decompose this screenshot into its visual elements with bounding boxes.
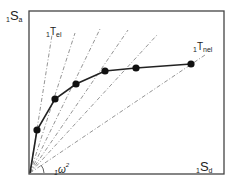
point: [33, 126, 40, 133]
x-axis-label: 1Sd: [196, 157, 212, 175]
ray-last-label: 1Tnel: [193, 36, 212, 54]
ray-3: [30, 29, 100, 173]
point: [101, 67, 108, 74]
ray-first-label: 1Tel: [46, 21, 61, 39]
point: [51, 95, 58, 102]
point: [132, 64, 139, 71]
y-axis-label-main: S: [10, 8, 19, 23]
angle-label-main: ω: [58, 164, 66, 175]
ray-tnel: [30, 55, 205, 173]
y-axis-label-sub: a: [19, 16, 23, 23]
ray-first-label-sub: el: [56, 31, 61, 38]
ray-last-label-sub: nel: [203, 46, 212, 53]
point: [72, 80, 79, 87]
ray-4: [30, 30, 128, 173]
angle-label-sup: 2: [66, 162, 69, 168]
angle-arc: [41, 165, 44, 173]
angle-label: 1ω2: [54, 159, 69, 177]
x-axis-label-sub: d: [209, 167, 213, 174]
x-axis-label-main: S: [200, 159, 209, 174]
y-axis-label: 1Sa: [6, 6, 22, 24]
curve-points: [33, 60, 194, 133]
point: [187, 60, 194, 67]
